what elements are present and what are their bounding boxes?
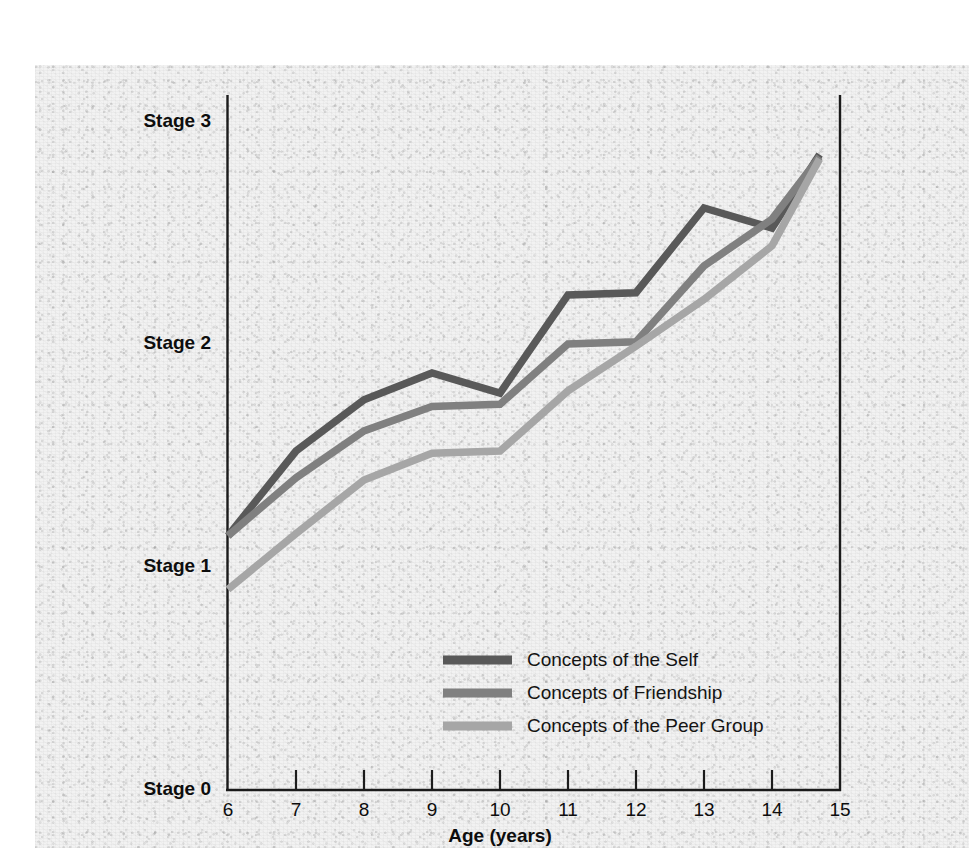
x-tick-label-14: 14: [761, 799, 783, 820]
x-tick-label-8: 8: [359, 799, 370, 820]
x-tick-label-9: 9: [427, 799, 438, 820]
y-axis-label-stage-2: Stage 2: [143, 332, 211, 353]
legend-label-concepts-of-the-peer-group: Concepts of the Peer Group: [527, 715, 764, 736]
y-axis-label-stage-1: Stage 1: [143, 555, 211, 576]
y-axis-labels: Stage 3 Stage 2 Stage 1 Stage 0: [143, 110, 211, 799]
x-tick-label-10: 10: [489, 799, 510, 820]
y-axis-label-stage-0: Stage 0: [143, 778, 211, 799]
legend-label-concepts-of-friendship: Concepts of Friendship: [527, 682, 722, 703]
x-axis-tick-labels: 6 7 8 9 10 11 12 13 14 15: [223, 799, 851, 820]
x-tick-label-12: 12: [625, 799, 646, 820]
line-chart: Stage 3 Stage 2 Stage 1 Stage 0 6 7 8 9 …: [0, 0, 969, 848]
y-axis-label-stage-3: Stage 3: [143, 110, 211, 131]
x-tick-label-15: 15: [829, 799, 850, 820]
x-axis-ticks: [296, 770, 772, 790]
series-lines: [228, 154, 820, 589]
x-tick-label-6: 6: [223, 799, 234, 820]
x-axis-title: Age (years): [448, 825, 552, 846]
chart-legend: Concepts of the Self Concepts of Friends…: [443, 649, 764, 736]
legend-label-concepts-of-the-self: Concepts of the Self: [527, 649, 699, 670]
x-tick-label-13: 13: [693, 799, 714, 820]
figure-container: Stage 3 Stage 2 Stage 1 Stage 0 6 7 8 9 …: [0, 0, 969, 848]
series-line-concepts-of-the-self: [228, 154, 820, 535]
x-tick-label-11: 11: [558, 799, 578, 820]
series-line-concepts-of-the-peer-group: [228, 159, 820, 589]
x-tick-label-7: 7: [291, 799, 302, 820]
